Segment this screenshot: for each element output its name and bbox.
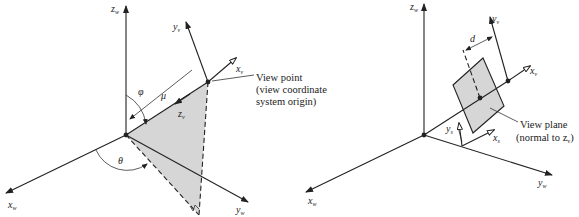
xv-axis-right bbox=[508, 66, 530, 81]
xw-label-right: xw bbox=[307, 195, 316, 207]
view-coordinate-diagrams: zw xw yw yv xv zv φ θ μ View point (view… bbox=[0, 0, 579, 217]
xv-label: xv bbox=[235, 63, 243, 75]
mu-label: μ bbox=[160, 90, 166, 101]
phi-arc bbox=[126, 95, 146, 124]
view-point-note-line3: system origin) bbox=[256, 96, 317, 108]
d-dimension-arrow-left bbox=[466, 46, 474, 50]
phi-label: φ bbox=[138, 86, 144, 97]
view-point-note-line2: (view coordinate bbox=[256, 84, 327, 96]
theta-label: θ bbox=[118, 155, 123, 166]
view-plane-note-line1: View plane bbox=[520, 119, 568, 130]
view-point-note-line1: View point bbox=[256, 72, 302, 83]
ys-axis bbox=[459, 123, 462, 146]
zw-label-right: zw bbox=[409, 1, 418, 13]
yv-label: yv bbox=[172, 21, 180, 33]
yw-label-right: yw bbox=[537, 177, 546, 189]
view-point-leader bbox=[212, 75, 254, 81]
xw-label: xw bbox=[7, 199, 16, 211]
xw-axis bbox=[6, 135, 126, 193]
d-label: d bbox=[470, 33, 476, 44]
xs-label: xs bbox=[492, 132, 500, 144]
view-point-dot-right bbox=[506, 79, 511, 84]
yv-label-right: yv bbox=[491, 13, 499, 25]
view-plane-note-line2: (normal to zv) bbox=[516, 132, 574, 144]
plane-center-dot bbox=[478, 96, 483, 101]
yv-axis-right bbox=[490, 17, 508, 81]
zw-label: zw bbox=[110, 3, 119, 15]
world-origin-dot-right bbox=[422, 133, 427, 138]
left-diagram: zw xw yw yv xv zv φ θ μ View point (view… bbox=[6, 3, 327, 216]
view-point-dot bbox=[206, 80, 211, 85]
yv-axis bbox=[186, 22, 208, 82]
d-dimension-arrow-right bbox=[474, 37, 492, 46]
view-plane bbox=[453, 58, 504, 133]
xv-label-right: xv bbox=[529, 65, 537, 77]
ys-label: ys bbox=[445, 123, 453, 135]
xw-axis-right bbox=[306, 135, 424, 192]
yw-label: yw bbox=[235, 204, 244, 216]
right-diagram: zw xw yw yv xv d ys xs View plane (norma… bbox=[306, 1, 574, 207]
xs-axis bbox=[462, 130, 494, 146]
world-origin-dot bbox=[124, 133, 129, 138]
